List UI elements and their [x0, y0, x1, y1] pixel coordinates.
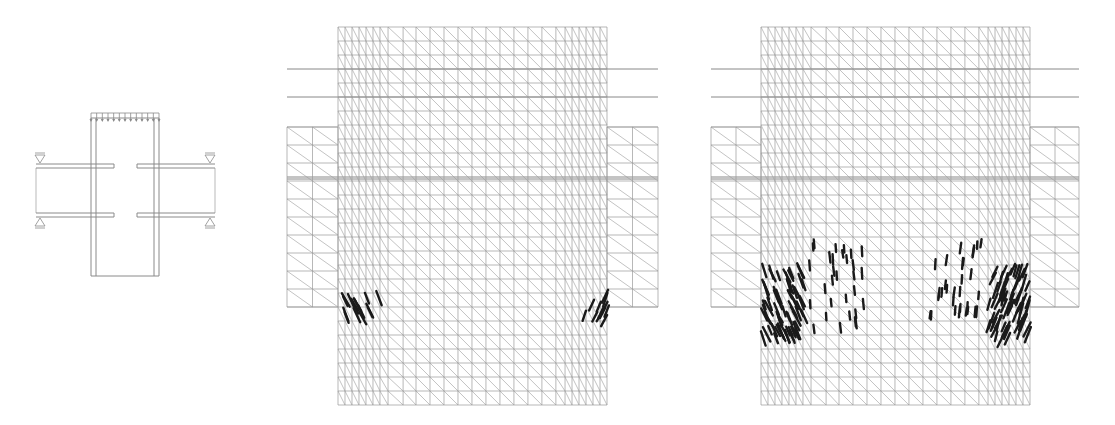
fe-mesh-extended-cracking [711, 27, 1079, 405]
fe-mesh-initial-cracking [287, 27, 658, 405]
joint-schematic [35, 113, 215, 276]
figure-canvas [0, 0, 1115, 425]
